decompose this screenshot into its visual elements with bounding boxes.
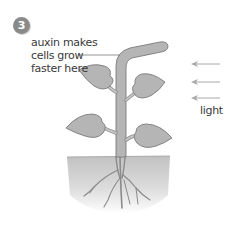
arrow-left-icon bbox=[191, 61, 220, 67]
annotation-line-2: cells grow bbox=[31, 49, 83, 62]
leaf-lower-left bbox=[66, 114, 105, 137]
annotation-line-3: faster here bbox=[31, 62, 88, 75]
light-label: light bbox=[200, 104, 223, 117]
leaf-lower-right bbox=[134, 124, 172, 147]
step-number-badge: 3 bbox=[13, 17, 30, 34]
arrow-left-icon bbox=[191, 79, 220, 85]
annotation-line-1: auxin makes bbox=[31, 36, 97, 49]
arrow-left-icon bbox=[191, 95, 220, 101]
light-arrows bbox=[191, 61, 220, 101]
plant-illustration bbox=[0, 0, 231, 227]
phototropism-diagram: 3 auxin makes cells grow faster here lig… bbox=[0, 0, 231, 227]
leaf-upper-right bbox=[133, 74, 166, 98]
soil bbox=[67, 156, 170, 214]
